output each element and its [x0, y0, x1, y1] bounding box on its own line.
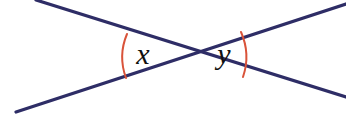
geometry-figure: x y [0, 0, 346, 114]
figure-background [0, 0, 346, 114]
angle-label-x: x [135, 37, 150, 70]
intersecting-lines-diagram: x y [0, 0, 346, 114]
angle-label-y: y [214, 37, 231, 70]
